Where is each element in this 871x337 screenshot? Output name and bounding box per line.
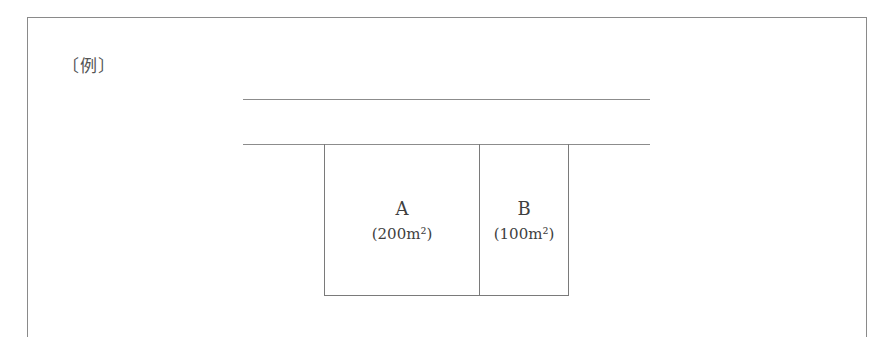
lot-a-area: (200m²) — [325, 227, 479, 242]
lot-a-name: A — [325, 200, 479, 218]
lot-b-area: (100m²) — [480, 227, 568, 242]
lot-b: B (100m²) — [480, 200, 568, 242]
road-line-top — [243, 99, 650, 100]
lot-b-name: B — [480, 200, 568, 218]
lot-a: A (200m²) — [325, 200, 479, 242]
example-label: 〔例〕 — [62, 52, 116, 77]
